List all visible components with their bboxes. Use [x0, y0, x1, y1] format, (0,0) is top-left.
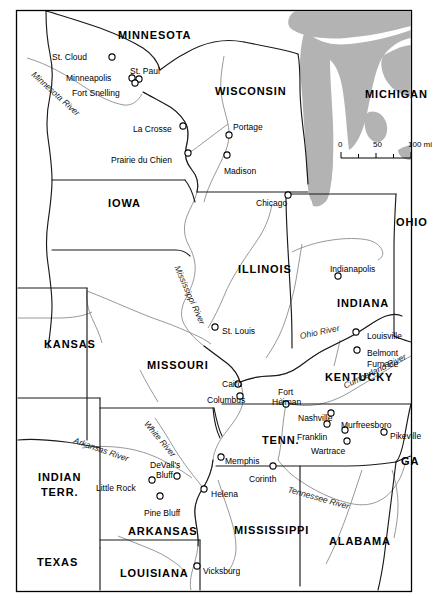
- city-marker: [174, 473, 180, 479]
- city-marker: [354, 347, 360, 353]
- city-marker: [185, 150, 191, 156]
- city-marker: [180, 123, 186, 129]
- city-marker: [328, 410, 334, 416]
- city-marker: [201, 486, 207, 492]
- city-marker: [235, 381, 241, 387]
- city-marker: [324, 421, 330, 427]
- city-marker: [226, 132, 232, 138]
- city-marker: [109, 54, 115, 60]
- city-marker: [237, 393, 243, 399]
- city-marker: [270, 463, 276, 469]
- city-marker: [157, 493, 163, 499]
- city-marker: [149, 477, 155, 483]
- city-marker: [353, 329, 359, 335]
- city-marker: [132, 80, 138, 86]
- city-marker: [381, 429, 387, 435]
- city-marker: [194, 563, 200, 569]
- city-marker: [285, 192, 291, 198]
- city-marker: [218, 454, 224, 460]
- city-marker: [212, 324, 218, 330]
- city-marker: [344, 438, 350, 444]
- city-marker: [283, 401, 289, 407]
- city-marker: [224, 152, 230, 158]
- city-marker: [335, 273, 341, 279]
- city-marker: [342, 427, 348, 433]
